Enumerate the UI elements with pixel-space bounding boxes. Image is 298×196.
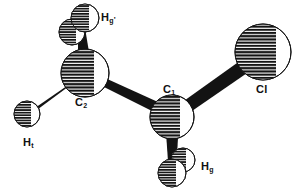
label-ht-base: H bbox=[23, 136, 31, 148]
label-hg-base: H bbox=[201, 160, 209, 172]
label-c2-base: C bbox=[75, 96, 83, 108]
label-c1: C1 bbox=[163, 84, 175, 95]
label-ht-sub: t bbox=[31, 142, 34, 149]
label-c1-base: C bbox=[163, 83, 171, 95]
label-hg-sub: g bbox=[209, 166, 213, 173]
label-c2-sub: 2 bbox=[83, 102, 87, 109]
label-cl: Cl bbox=[256, 84, 267, 95]
label-hg-prime-base: H bbox=[101, 11, 109, 23]
label-hg-prime-sub: g bbox=[109, 17, 113, 24]
label-cl-base: Cl bbox=[256, 83, 267, 95]
label-hg-prime: Hg' bbox=[101, 12, 116, 23]
label-ht: Ht bbox=[23, 137, 34, 148]
label-c1-sub: 1 bbox=[171, 89, 175, 96]
molecule-diagram bbox=[0, 0, 298, 196]
label-c2: C2 bbox=[75, 97, 87, 108]
label-hg: Hg bbox=[201, 161, 214, 172]
label-hg-prime-mark: ' bbox=[114, 15, 116, 24]
